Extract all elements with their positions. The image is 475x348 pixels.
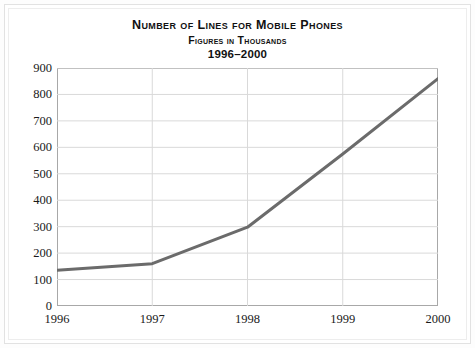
y-tick-label-500: 500 [0,168,52,180]
gridlines-vertical [152,68,343,306]
plot-area [57,68,438,306]
y-tick-label-300: 300 [0,221,52,233]
chart-title: Number of Lines for Mobile Phones [0,18,475,33]
y-axis-tick-labels: 0100200300400500600700800900 [0,68,52,306]
y-tick-label-200: 200 [0,247,52,259]
x-tick-label-2000: 2000 [403,312,473,326]
chart-figure: Number of Lines for Mobile Phones Figure… [0,0,475,348]
x-tick-label-1998: 1998 [213,312,283,326]
x-tick-label-1996: 1996 [22,312,92,326]
y-tick-label-800: 800 [0,88,52,100]
y-tick-label-100: 100 [0,274,52,286]
x-axis-tick-labels: 19961997199819992000 [0,312,475,332]
plot-svg [57,68,438,306]
chart-subtitle: Figures in Thousands [0,33,475,47]
y-tick-label-0: 0 [0,300,52,312]
y-tick-label-700: 700 [0,115,52,127]
chart-title-block: Number of Lines for Mobile Phones Figure… [0,18,475,62]
chart-period-label: 1996–2000 [0,47,475,62]
x-tick-label-1997: 1997 [117,312,187,326]
y-tick-label-600: 600 [0,141,52,153]
y-tick-label-900: 900 [0,62,52,74]
y-tick-label-400: 400 [0,194,52,206]
x-tick-label-1999: 1999 [308,312,378,326]
